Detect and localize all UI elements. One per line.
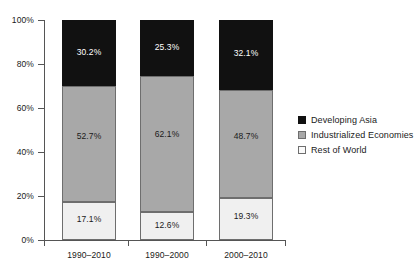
- bar-segment[interactable]: 19.3%: [219, 198, 273, 240]
- legend-item-label: Developing Asia: [311, 115, 377, 125]
- bar-segment[interactable]: 25.3%: [140, 20, 194, 76]
- bar-segment[interactable]: 12.6%: [140, 212, 194, 240]
- stacked-bar-chart: 100%80%60%40%20%0% 17.1%52.7%30.2%12.6%6…: [0, 0, 414, 275]
- chart-legend: Developing AsiaIndustrialized EconomiesR…: [298, 112, 413, 157]
- x-axis-tick: [206, 241, 207, 246]
- bar-segment[interactable]: 30.2%: [62, 20, 116, 86]
- x-axis-tick: [285, 241, 286, 246]
- y-axis-tick-label: 80%: [2, 59, 34, 69]
- bar-segment-label: 62.1%: [155, 130, 180, 139]
- bar-segment-label: 12.6%: [155, 221, 180, 230]
- legend-item[interactable]: Rest of World: [298, 142, 413, 157]
- bar-segment-label: 19.3%: [234, 212, 259, 221]
- y-axis-tick-label: 100%: [2, 15, 34, 25]
- legend-item-label: Rest of World: [311, 145, 367, 155]
- bar-column[interactable]: 12.6%62.1%25.3%: [140, 20, 194, 240]
- y-axis-tick-label: 0%: [2, 235, 34, 245]
- bar-segment[interactable]: 32.1%: [219, 20, 273, 91]
- bar-segment-label: 17.1%: [77, 215, 102, 224]
- bar-segment-label: 52.7%: [77, 132, 102, 141]
- x-axis-tick-label: 1990–2000: [127, 250, 207, 260]
- legend-item[interactable]: Industrialized Economies: [298, 127, 413, 142]
- y-axis-tick-label: 60%: [2, 103, 34, 113]
- x-axis-tick-label: 2000–2010: [206, 250, 286, 260]
- bar-segment-label: 30.2%: [77, 48, 102, 57]
- plot-area: 17.1%52.7%30.2%12.6%62.1%25.3%19.3%48.7%…: [44, 20, 285, 240]
- bar-segment-label: 48.7%: [234, 132, 259, 141]
- legend-item-label: Industrialized Economies: [311, 130, 413, 140]
- bar-segment[interactable]: 48.7%: [219, 90, 273, 197]
- legend-swatch-icon: [298, 131, 306, 139]
- legend-swatch-icon: [298, 146, 306, 154]
- y-axis-tick-label: 20%: [2, 191, 34, 201]
- legend-item[interactable]: Developing Asia: [298, 112, 413, 127]
- bar-column[interactable]: 17.1%52.7%30.2%: [62, 20, 116, 240]
- x-axis-line: [44, 240, 286, 241]
- bar-segment[interactable]: 17.1%: [62, 202, 116, 240]
- legend-swatch-icon: [298, 116, 306, 124]
- x-axis-tick-label: 1990–2010: [49, 250, 129, 260]
- bar-segment[interactable]: 52.7%: [62, 86, 116, 202]
- bar-segment-label: 25.3%: [155, 43, 180, 52]
- y-axis-tick-label: 40%: [2, 147, 34, 157]
- bar-segment-label: 32.1%: [234, 49, 259, 58]
- bar-segment[interactable]: 62.1%: [140, 76, 194, 213]
- bar-column[interactable]: 19.3%48.7%32.1%: [219, 20, 273, 240]
- x-axis-tick: [44, 241, 45, 246]
- x-axis-tick: [128, 241, 129, 246]
